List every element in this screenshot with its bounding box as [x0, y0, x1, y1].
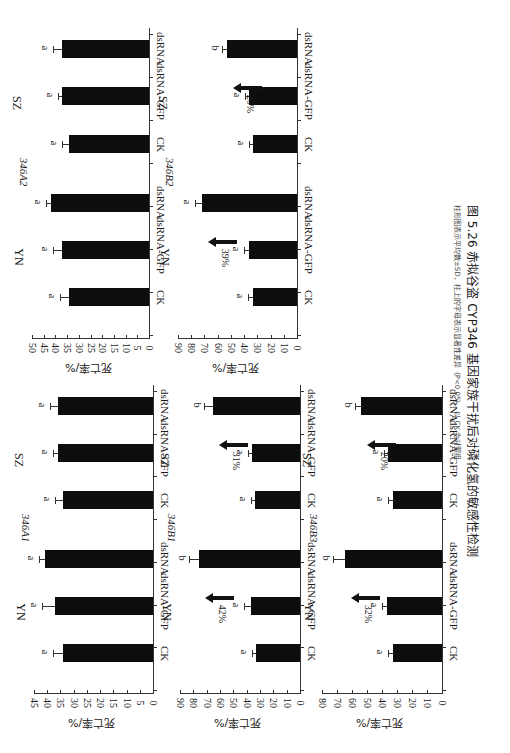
category-label: dsRNA — [303, 32, 315, 65]
category-tick — [149, 292, 153, 293]
value-tick — [74, 690, 75, 694]
value-tick — [114, 335, 115, 339]
value-tick — [87, 690, 88, 694]
bar-SZ-CK — [253, 135, 297, 153]
bar-YN-dsRNA — [199, 550, 300, 568]
value-tick — [397, 690, 398, 694]
value-tick — [32, 335, 33, 339]
error-cap — [58, 93, 59, 100]
value-tick — [284, 335, 285, 339]
category-tick — [149, 206, 153, 207]
category-tick — [300, 647, 304, 648]
significance-letter: a — [29, 602, 39, 606]
bar-YN-CK — [256, 644, 300, 662]
error-cap — [53, 450, 54, 457]
gene-title: 346A2 — [18, 157, 30, 186]
value-tick-label: 5 — [132, 342, 142, 354]
category-tick — [442, 690, 446, 691]
category-label: CK — [159, 646, 171, 661]
value-tick-label: 25 — [82, 697, 92, 709]
error-cap — [333, 556, 334, 563]
error-bar — [50, 406, 58, 407]
value-tick — [140, 690, 141, 694]
category-label: dsRNA-GFP — [303, 217, 315, 274]
value-tick — [260, 690, 261, 694]
increase-arrow-shaft — [358, 596, 380, 600]
error-cap — [204, 403, 205, 410]
category-label: dsRNA — [159, 542, 171, 575]
value-tick-label: 30 — [74, 342, 84, 354]
significance-letter: a — [182, 199, 192, 203]
category-tick — [149, 335, 153, 336]
value-tick-label: 10 — [279, 342, 289, 354]
value-tick-label: 20 — [95, 697, 105, 709]
value-axis — [180, 693, 300, 694]
error-cap — [53, 650, 54, 657]
value-tick-label: 80 — [186, 342, 196, 354]
value-tick-label: 5 — [135, 697, 145, 709]
increase-percent: 32% — [363, 604, 373, 622]
category-tick — [442, 434, 446, 435]
category-label: CK — [306, 646, 318, 661]
significance-letter: a — [231, 247, 241, 251]
group-label: SZ — [159, 453, 171, 467]
bar-SZ-CK — [393, 491, 443, 509]
bar-YN-CK — [393, 644, 443, 662]
category-label: CK — [159, 493, 171, 508]
category-label: CK — [155, 137, 167, 152]
significance-letter: a — [47, 294, 57, 298]
value-tick — [126, 335, 127, 339]
category-label: dsRNA-GFP — [306, 573, 318, 630]
error-cap — [42, 603, 43, 610]
error-bar — [62, 144, 69, 145]
significance-letter: b — [343, 403, 353, 408]
category-tick — [153, 519, 157, 520]
value-tick — [427, 690, 428, 694]
category-label: dsRNA-GFP — [159, 573, 171, 630]
category-label: dsRNA-GFP — [303, 63, 315, 120]
value-tick — [271, 335, 272, 339]
category-tick — [442, 647, 446, 648]
gene-title: 346B3 — [308, 513, 320, 542]
significance-letter: a — [375, 649, 385, 653]
group-label: SZ — [13, 453, 25, 467]
bar-YN-dsRNA — [202, 194, 297, 212]
error-bar — [204, 406, 213, 407]
y-axis-label: 死亡率/% — [212, 361, 259, 377]
value-tick — [47, 690, 48, 694]
value-tick-label: 70 — [202, 697, 212, 709]
value-tick — [231, 335, 232, 339]
value-tick — [220, 690, 221, 694]
significance-letter: a — [40, 247, 50, 251]
bar-YN-dsRNA — [345, 550, 443, 568]
group-label: YN — [161, 603, 173, 620]
value-tick — [273, 690, 274, 694]
value-tick-label: 90 — [173, 342, 183, 354]
gene-title: 346B1 — [166, 513, 178, 542]
category-tick — [153, 434, 157, 435]
value-tick-label: 80 — [317, 697, 327, 709]
significance-letter: a — [233, 93, 243, 97]
value-tick — [55, 335, 56, 339]
category-label: dsRNA — [306, 389, 318, 422]
category-label: CK — [303, 290, 315, 305]
value-axis — [34, 693, 153, 694]
bar-YN-dsRNA — [45, 550, 153, 568]
value-tick-label: 10 — [122, 697, 132, 709]
category-label: dsRNA — [303, 186, 315, 219]
increase-percent: 20% — [379, 452, 389, 470]
category-tick — [153, 476, 157, 477]
error-cap — [388, 497, 389, 504]
significance-letter: b — [209, 46, 219, 51]
bar-SZ-dsRNA-GFP — [252, 444, 300, 462]
increase-arrow-shaft — [212, 596, 234, 600]
value-tick-label: 15 — [108, 697, 118, 709]
y-axis-label: 死亡率/% — [356, 716, 403, 732]
value-tick-label: 0 — [295, 697, 305, 709]
error-bar — [333, 559, 345, 560]
value-tick — [100, 690, 101, 694]
value-tick-label: 0 — [148, 697, 158, 709]
category-tick — [297, 249, 301, 250]
value-tick — [127, 690, 128, 694]
bar-SZ-CK — [63, 491, 153, 509]
